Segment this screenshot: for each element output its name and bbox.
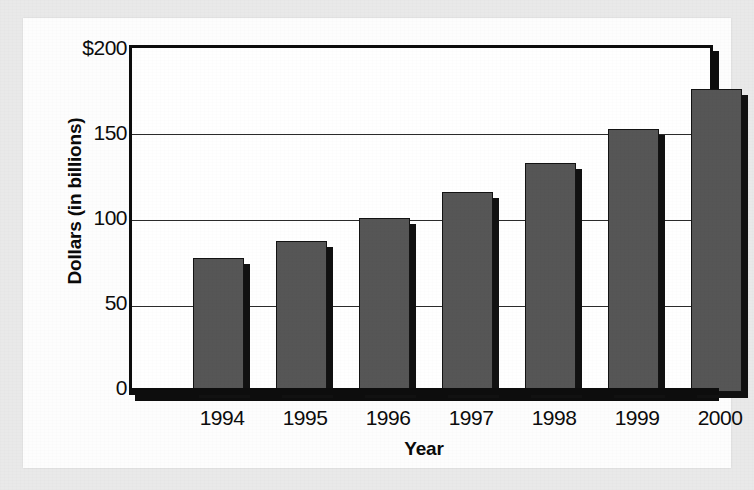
bar-body-1995 <box>276 241 327 392</box>
bar-body-1994 <box>193 258 244 392</box>
x-axis-tick-labels: 1994 1995 1996 1997 1998 1999 2000 <box>129 406 719 436</box>
bar-1995[interactable] <box>276 241 327 392</box>
y-tick-label-200: $200 <box>41 36 127 60</box>
x-tick-label-2000: 2000 <box>698 406 743 430</box>
x-tick-label-1999: 1999 <box>615 406 660 430</box>
x-tick-label-1998: 1998 <box>532 406 577 430</box>
x-tick-label-1996: 1996 <box>366 406 411 430</box>
bar-1996[interactable] <box>359 218 410 392</box>
y-tick-label-50: 50 <box>41 291 127 315</box>
bar-series <box>132 48 710 392</box>
bar-body-1997 <box>442 192 493 392</box>
bar-1994[interactable] <box>193 258 244 392</box>
y-tick-label-0: 0 <box>41 376 127 400</box>
x-axis-title: Year <box>129 438 719 460</box>
screenshot-root: Dollars (in billions) $200 150 100 50 0 <box>0 0 754 490</box>
x-axis-baseline <box>129 388 719 395</box>
bar-1998[interactable] <box>525 163 576 392</box>
bar-body-1999 <box>608 129 659 392</box>
y-tick-label-150: 150 <box>41 121 127 145</box>
x-tick-label-1997: 1997 <box>449 406 494 430</box>
bar-chart-figure: Dollars (in billions) $200 150 100 50 0 <box>23 18 731 468</box>
bar-body-1996 <box>359 218 410 392</box>
plot-inner <box>132 48 710 392</box>
bar-2000[interactable] <box>691 89 742 392</box>
bar-1997[interactable] <box>442 192 493 392</box>
plot-area <box>129 45 713 395</box>
x-tick-label-1994: 1994 <box>200 406 245 430</box>
bar-body-2000 <box>691 89 742 392</box>
bar-1999[interactable] <box>608 129 659 392</box>
scanned-page: Dollars (in billions) $200 150 100 50 0 <box>23 18 731 468</box>
x-tick-label-1995: 1995 <box>283 406 328 430</box>
bar-body-1998 <box>525 163 576 392</box>
y-tick-label-100: 100 <box>41 206 127 230</box>
y-axis-tick-labels: $200 150 100 50 0 <box>35 18 127 468</box>
